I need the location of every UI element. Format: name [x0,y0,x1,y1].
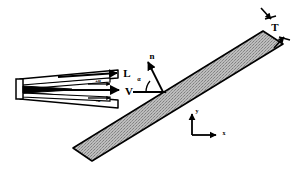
diagram-canvas: T n α L [0,0,302,182]
plus-alpha-label: +α [95,78,101,83]
normal-vector-label: n [149,51,154,61]
minus-alpha-label: -α [96,98,101,103]
angle-of-attack-group: n α [133,51,166,92]
axis-y-label: y [196,108,199,114]
coordinate-axes: y x [192,108,226,136]
axis-x-label: x [223,130,226,136]
normal-vector-arrow [148,62,163,92]
blade-root-hub [16,79,23,99]
plate-body [73,31,283,161]
angle-arc [146,81,150,92]
angle-label: α [137,76,141,82]
velocity-label: V [125,85,133,97]
lift-label: L [123,67,130,79]
figure-root: T n α L [0,0,302,182]
thickness-label: T [271,21,279,33]
inclined-plate [73,31,283,161]
